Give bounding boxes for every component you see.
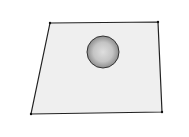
- diagram-canvas: [0, 0, 189, 137]
- plane-corner-bottom-right: [161, 111, 163, 113]
- plane-corner-top-left: [49, 22, 51, 24]
- scene-svg: [0, 0, 189, 137]
- plane-corner-top-right: [157, 21, 159, 23]
- plane-corner-bottom-left: [30, 113, 32, 115]
- ground-plane: [31, 22, 162, 114]
- sphere: [87, 36, 119, 68]
